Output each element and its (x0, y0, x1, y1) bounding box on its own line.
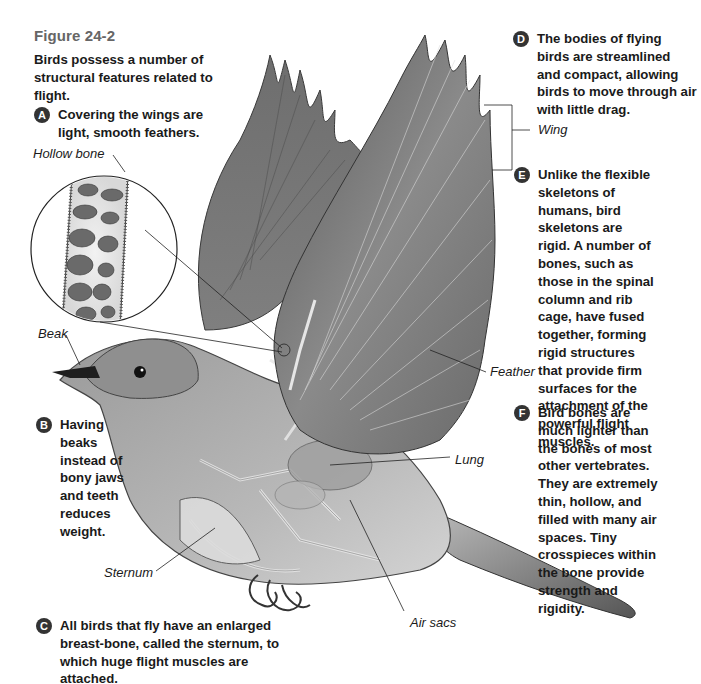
label-beak: Beak (38, 326, 68, 341)
label-air-sacs: Air sacs (410, 615, 456, 630)
label-wing: Wing (538, 122, 568, 137)
badge-a-icon: A (34, 107, 50, 123)
callout-a-text: Covering the wings are light, smooth fea… (58, 107, 203, 140)
label-sternum: Sternum (104, 565, 153, 580)
callout-c: C All birds that fly have an enlarged br… (60, 617, 300, 684)
label-lung: Lung (455, 452, 484, 467)
hollow-bone-inset (31, 175, 177, 330)
callout-a: A Covering the wings are light, smooth f… (58, 106, 238, 142)
callout-f: F Bird bones are much lighter than the b… (538, 404, 658, 618)
callout-d-text: The bodies of flying birds are streamlin… (537, 31, 697, 117)
badge-e-icon: E (514, 167, 530, 183)
figure-title: Figure 24-2 (34, 27, 115, 44)
label-feather: Feather (490, 364, 535, 379)
badge-d-icon: D (513, 31, 529, 47)
label-hollow-bone: Hollow bone (33, 146, 105, 161)
callout-f-text: Bird bones are much lighter than the bon… (538, 405, 658, 616)
badge-b-icon: B (36, 417, 52, 433)
badge-c-icon: C (36, 618, 52, 634)
callout-b: B Having beaks instead of bony jaws and … (60, 416, 130, 541)
badge-f-icon: F (514, 405, 530, 421)
callout-d: D The bodies of flying birds are streaml… (537, 30, 697, 119)
callout-c-text: All birds that fly have an enlarged brea… (60, 618, 279, 684)
callout-b-text: Having beaks instead of bony jaws and te… (60, 417, 124, 539)
eye (134, 366, 146, 378)
figure-caption: Birds possess a number of structural fea… (34, 51, 244, 105)
